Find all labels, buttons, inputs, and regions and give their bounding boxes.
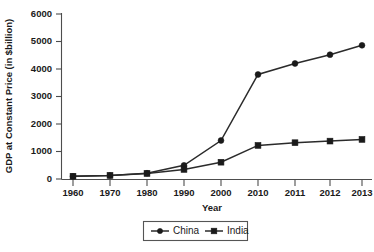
series-line-india (73, 139, 362, 176)
circle-marker-icon (218, 138, 224, 144)
chart-canvas: GDP at Constant Price (in $billion) 0 10… (0, 0, 374, 252)
series-layer (70, 42, 365, 179)
y-axis-title: GDP at Constant Price (in $billion) (3, 19, 14, 173)
square-marker-icon (359, 137, 365, 143)
x-tick-label: 1960 (62, 187, 83, 198)
x-tick-label: 2010 (247, 187, 268, 198)
x-tick-label: 2012 (319, 187, 340, 198)
square-marker-icon (218, 159, 224, 165)
y-tick-label: 3000 (31, 90, 52, 101)
series-line-china (73, 45, 362, 176)
square-marker-icon (70, 173, 76, 179)
circle-marker-icon (255, 72, 261, 78)
y-tick-label: 6000 (31, 8, 52, 19)
y-tick-label: 2000 (31, 118, 52, 129)
x-axis-tick-labels: 1960 1970 1980 1990 2000 2010 2011 2012 … (62, 187, 372, 198)
circle-marker-icon (327, 52, 333, 58)
circle-marker-icon (157, 228, 162, 233)
circle-marker-icon (292, 61, 298, 67)
y-tick-label: 0 (47, 173, 52, 184)
x-tick-label: 2000 (210, 187, 231, 198)
y-tick-label: 4000 (31, 63, 52, 74)
legend-label-india: India (227, 225, 249, 236)
square-marker-icon (107, 173, 113, 179)
square-marker-icon (255, 143, 261, 149)
legend-label-china: China (173, 225, 200, 236)
circle-marker-icon (359, 42, 365, 48)
square-marker-icon (292, 140, 298, 146)
legend: China India (144, 222, 250, 241)
x-axis-title: Year (202, 202, 222, 213)
x-axis (62, 180, 373, 187)
x-tick-label: 2013 (351, 187, 372, 198)
y-tick-label: 5000 (31, 35, 52, 46)
x-tick-label: 1970 (99, 187, 120, 198)
line-chart: GDP at Constant Price (in $billion) 0 10… (0, 0, 374, 252)
y-tick-label: 1000 (31, 145, 52, 156)
square-marker-icon (327, 138, 333, 144)
y-axis-tick-labels: 0 1000 2000 3000 4000 5000 6000 (31, 8, 52, 184)
x-tick-label: 1980 (136, 187, 157, 198)
series-china (70, 42, 365, 179)
y-axis (56, 13, 62, 180)
square-marker-icon (181, 167, 187, 173)
square-marker-icon (144, 171, 150, 177)
square-marker-icon (211, 228, 217, 234)
x-tick-label: 2011 (285, 187, 306, 198)
x-tick-label: 1990 (173, 187, 194, 198)
